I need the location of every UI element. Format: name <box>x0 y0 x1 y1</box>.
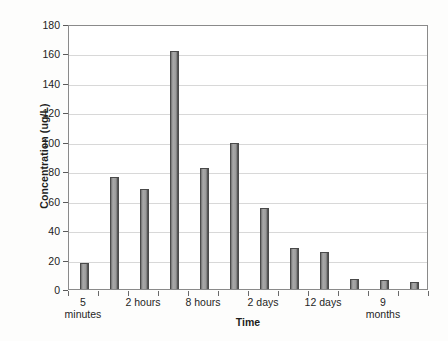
y-axis-tick-label: 160 <box>20 48 60 60</box>
y-axis-tick-label: 40 <box>20 225 60 237</box>
y-axis-title: Concentration (ug/L) <box>38 26 50 286</box>
x-axis-tick-label-line1: 12 days <box>305 296 342 308</box>
bar <box>170 51 179 290</box>
bar-chart-figure: Concentration (ug/L) 0204060801001201401… <box>0 0 448 341</box>
x-axis-title: Time <box>68 316 428 328</box>
bar <box>110 177 119 289</box>
y-axis-tick-label: 20 <box>20 255 60 267</box>
x-axis-tick-label-line1: 8 hours <box>185 296 220 308</box>
bar <box>320 252 329 289</box>
bar <box>380 280 389 289</box>
gridline <box>69 203 427 204</box>
bar <box>230 143 239 289</box>
x-axis-tick-label-line1: 2 days <box>248 296 279 308</box>
gridline <box>69 232 427 233</box>
bar <box>260 208 269 289</box>
x-axis-tick <box>428 291 429 296</box>
bar <box>80 263 89 290</box>
y-axis-tick-label: 80 <box>20 166 60 178</box>
gridline <box>69 144 427 145</box>
y-axis-tick-label: 120 <box>20 107 60 119</box>
gridline <box>69 114 427 115</box>
x-axis-tick-label-line1: 9 <box>380 296 386 308</box>
bar <box>410 282 419 289</box>
bar <box>200 168 209 289</box>
x-axis-tick-label-line1: 2 hours <box>125 296 160 308</box>
gridline <box>69 262 427 263</box>
y-axis-tick-label: 60 <box>20 196 60 208</box>
x-axis-tick-label-line1: 5 <box>80 296 86 308</box>
bar <box>290 248 299 289</box>
gridline <box>69 55 427 56</box>
bar <box>350 279 359 289</box>
y-axis-tick-label: 100 <box>20 137 60 149</box>
gridline <box>69 173 427 174</box>
y-axis-tick-label: 0 <box>20 284 60 296</box>
plot-area <box>68 25 428 290</box>
y-axis-tick-label: 140 <box>20 78 60 90</box>
bar <box>140 189 149 289</box>
y-axis-tick-label: 180 <box>20 19 60 31</box>
gridline <box>69 85 427 86</box>
